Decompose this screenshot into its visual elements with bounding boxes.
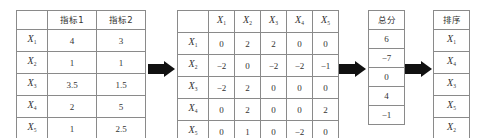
header-indicator-1: 指标1 xyxy=(48,11,97,30)
table-row: X4 2 5 xyxy=(17,96,146,118)
cell: 0 xyxy=(235,55,261,77)
corner-cell xyxy=(17,11,48,30)
row-label: X4 xyxy=(178,99,209,121)
ranking-table: 排序 X1 X4 X3 X5 X2 xyxy=(433,10,470,138)
cell: −2 xyxy=(209,77,235,99)
total-score-table: 总分 6 −7 0 4 −1 xyxy=(368,10,405,125)
row-label: X5 xyxy=(178,121,209,139)
table-row: X5 0 1 0 −2 0 xyxy=(178,121,339,139)
cell: 0 xyxy=(287,99,313,121)
cell: 3.5 xyxy=(48,74,97,96)
cell: 2 xyxy=(313,99,339,121)
cell: −1 xyxy=(369,106,405,125)
cell: 1 xyxy=(97,52,146,74)
table-row: X2 1 1 xyxy=(17,52,146,74)
cell: 2 xyxy=(235,99,261,121)
row-label: X4 xyxy=(17,96,48,118)
cell: 4 xyxy=(369,87,405,106)
cell: 0 xyxy=(369,68,405,87)
table-row: X4 xyxy=(434,52,470,74)
cell: 1 xyxy=(235,121,261,139)
cell: 0 xyxy=(287,77,313,99)
comparison-matrix: X1 X2 X3 X4 X5 X1 0 2 2 0 0 X2 −2 0 −2 −… xyxy=(177,10,339,138)
cell: 0 xyxy=(209,99,235,121)
table-row: X1 0 2 2 0 0 xyxy=(178,33,339,55)
cell: X2 xyxy=(434,118,470,139)
cell: 2 xyxy=(235,33,261,55)
table-header-row: 指标1 指标2 xyxy=(17,11,146,30)
cell: 6 xyxy=(369,30,405,49)
cell: 0 xyxy=(313,121,339,139)
cell: 1.5 xyxy=(97,74,146,96)
right-arrow-icon xyxy=(405,61,433,77)
cell: 1 xyxy=(48,52,97,74)
cell: X1 xyxy=(434,30,470,52)
cell: −2 xyxy=(287,55,313,77)
table-header-row: 排序 xyxy=(434,11,470,30)
cell: −2 xyxy=(287,121,313,139)
row-label: X3 xyxy=(178,77,209,99)
table-row: X2 −2 0 −2 −2 −1 xyxy=(178,55,339,77)
cell: 0 xyxy=(209,121,235,139)
col-header: X4 xyxy=(287,11,313,33)
right-arrow-icon xyxy=(339,61,367,77)
cell: 0 xyxy=(313,33,339,55)
corner-cell xyxy=(178,11,209,33)
cell: 0 xyxy=(261,99,287,121)
cell: 0 xyxy=(261,121,287,139)
cell: 0 xyxy=(287,33,313,55)
cell: 2 xyxy=(48,96,97,118)
cell: X4 xyxy=(434,52,470,74)
table-row: 6 xyxy=(369,30,405,49)
table-row: X1 xyxy=(434,30,470,52)
table-header-row: 总分 xyxy=(369,11,405,30)
right-arrow-icon xyxy=(148,61,176,77)
row-label: X2 xyxy=(178,55,209,77)
row-label: X1 xyxy=(178,33,209,55)
row-label: X2 xyxy=(17,52,48,74)
row-label: X5 xyxy=(17,118,48,139)
table-row: −7 xyxy=(369,49,405,68)
table-row: X1 4 3 xyxy=(17,30,146,52)
table-row: X5 1 2.5 xyxy=(17,118,146,139)
header-ranking: 排序 xyxy=(434,11,470,30)
cell: 2 xyxy=(261,33,287,55)
cell: 4 xyxy=(48,30,97,52)
row-label: X3 xyxy=(17,74,48,96)
table-row: X2 xyxy=(434,118,470,139)
table-row: X3 −2 2 0 0 0 xyxy=(178,77,339,99)
col-header: X5 xyxy=(313,11,339,33)
cell: X5 xyxy=(434,96,470,118)
table-row: 4 xyxy=(369,87,405,106)
table-row: X4 0 2 0 0 2 xyxy=(178,99,339,121)
cell: 0 xyxy=(261,77,287,99)
cell: 5 xyxy=(97,96,146,118)
col-header: X1 xyxy=(209,11,235,33)
cell: X3 xyxy=(434,74,470,96)
indicator-table: 指标1 指标2 X1 4 3 X2 1 1 X3 3.5 1.5 X4 2 5 … xyxy=(16,10,146,138)
table-row: X3 xyxy=(434,74,470,96)
cell: −2 xyxy=(261,55,287,77)
cell: 1 xyxy=(48,118,97,139)
row-label: X1 xyxy=(17,30,48,52)
table-row: X5 xyxy=(434,96,470,118)
cell: −2 xyxy=(209,55,235,77)
table-header-row: X1 X2 X3 X4 X5 xyxy=(178,11,339,33)
table-row: −1 xyxy=(369,106,405,125)
cell: 2.5 xyxy=(97,118,146,139)
table-row: 0 xyxy=(369,68,405,87)
cell: 0 xyxy=(313,77,339,99)
cell: −7 xyxy=(369,49,405,68)
header-indicator-2: 指标2 xyxy=(97,11,146,30)
cell: 3 xyxy=(97,30,146,52)
cell: −1 xyxy=(313,55,339,77)
header-total-score: 总分 xyxy=(369,11,405,30)
cell: 0 xyxy=(209,33,235,55)
col-header: X3 xyxy=(261,11,287,33)
cell: 2 xyxy=(235,77,261,99)
col-header: X2 xyxy=(235,11,261,33)
table-row: X3 3.5 1.5 xyxy=(17,74,146,96)
